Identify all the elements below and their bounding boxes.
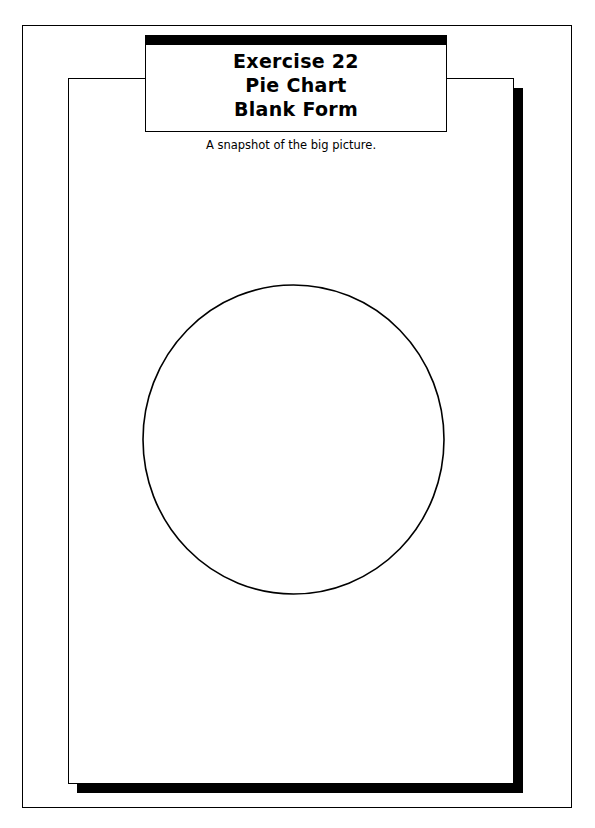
title-card: Exercise 22 Pie Chart Blank Form bbox=[145, 35, 447, 132]
form-kind-line: Blank Form bbox=[146, 97, 446, 121]
chart-type-line: Pie Chart bbox=[146, 73, 446, 97]
title-block: Exercise 22 Pie Chart Blank Form bbox=[146, 49, 446, 121]
title-card-top-rule bbox=[146, 36, 446, 45]
blank-pie-outline-icon bbox=[142, 284, 445, 595]
exercise-number-line: Exercise 22 bbox=[146, 49, 446, 73]
pie-chart-area[interactable] bbox=[142, 284, 445, 595]
worksheet-page: Exercise 22 Pie Chart Blank Form A snaps… bbox=[0, 0, 595, 828]
subtitle-tagline: A snapshot of the big picture. bbox=[68, 138, 514, 152]
